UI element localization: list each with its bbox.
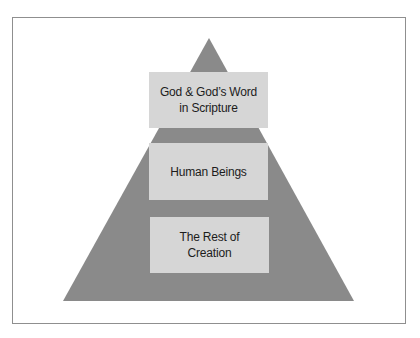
level-label: Creation [180,245,240,261]
level-box-rest-of-creation: The Rest of Creation [150,217,269,273]
level-label: in Scripture [160,100,257,116]
level-label: God & God’s Word [160,84,257,100]
level-box-god: God & God’s Word in Scripture [149,72,268,128]
level-label: Human Beings [170,164,246,180]
level-label: The Rest of [180,229,240,245]
level-box-human-beings: Human Beings [149,143,268,200]
